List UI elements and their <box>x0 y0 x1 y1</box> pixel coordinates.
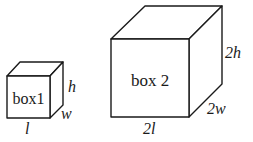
boxes-diagram: box1 h w l box 2 2h 2w 2l <box>0 0 253 142</box>
box2-length-label: 2l <box>143 120 156 137</box>
box1-length-label: l <box>25 120 30 137</box>
box1-width-label: w <box>61 105 72 122</box>
box2-label: box 2 <box>131 71 169 90</box>
box2-width-label: 2w <box>207 100 226 117</box>
box1-label: box1 <box>13 90 45 107</box>
box1: box1 h w l <box>7 62 76 137</box>
box1-height-label: h <box>68 78 76 95</box>
box2: box 2 2h 2w 2l <box>111 6 241 137</box>
box2-height-label: 2h <box>225 44 241 61</box>
